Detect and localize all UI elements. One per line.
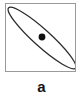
- center-dot-shape: [39, 34, 46, 41]
- panel-label: a: [0, 78, 83, 95]
- figure-panel-a: a: [0, 0, 83, 98]
- panel-graphic: [6, 4, 76, 72]
- panel-border: [5, 3, 76, 72]
